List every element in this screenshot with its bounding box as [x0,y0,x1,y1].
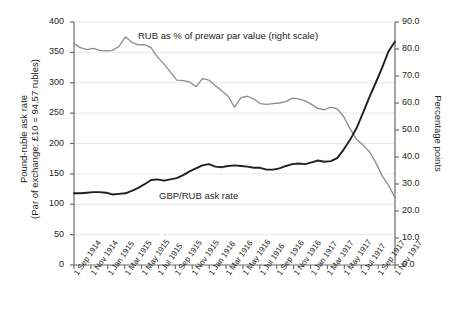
chart-container: Pound-ruble ask rate (Par of exchange: £… [0,0,452,330]
y-axis-right-tick-label: 70.0 [402,70,436,80]
plot-area [0,0,452,330]
gridlines [74,22,395,235]
y-axis-left-tick-label: 150 [34,168,64,178]
y-axis-left-tick-label: 300 [34,77,64,87]
annotation-gbp-rub: GBP/RUB ask rate [159,190,238,201]
y-axis-left-tick-label: 200 [34,138,64,148]
annotation-rub-percent: RUB as % of prewar par value (right scal… [138,30,318,41]
y-axis-right-tick-label: 90.0 [402,16,436,26]
y-axis-right-tick-label: 60.0 [402,97,436,107]
y-axis-left-tick-label: 0 [34,259,64,269]
y-axis-right-tick-label: 30.0 [402,178,436,188]
series-line-gbp-rub [74,41,395,194]
y-axis-right-tick-label: 50.0 [402,124,436,134]
y-axis-right-tick-label: 80.0 [402,43,436,53]
y-axis-left-tick-label: 100 [34,198,64,208]
y-axis-left-tick-label: 250 [34,107,64,117]
y-axis-right-tick-label: 20.0 [402,205,436,215]
y-axis-left-tick-label: 50 [34,229,64,239]
y-axis-right-tick-label: 40.0 [402,151,436,161]
y-axis-left-tick-label: 350 [34,46,64,56]
y-axis-left-tick-label: 400 [34,16,64,26]
